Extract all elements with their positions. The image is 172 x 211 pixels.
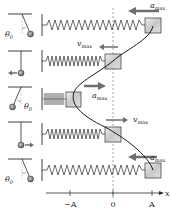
a-max-label: amax xyxy=(150,153,166,163)
tick-label-zero: 0 xyxy=(111,200,116,209)
v-max-arrow-left xyxy=(99,44,118,50)
velocity-arrow-left xyxy=(8,71,17,76)
v-max-label: vmax xyxy=(133,115,148,125)
shm-diagram: θ0 amax xyxy=(0,0,172,211)
tick-label-neg-a: −A xyxy=(64,200,77,209)
spring-mass-2: vmax xyxy=(42,39,121,72)
a-max-label: amax xyxy=(150,1,166,11)
block xyxy=(105,127,121,142)
row-5: θ0 amax xyxy=(5,153,166,185)
spring-mass-1: amax xyxy=(42,1,166,36)
spring xyxy=(42,56,105,66)
theta-label: θ0 xyxy=(5,175,14,185)
spring xyxy=(42,20,145,30)
pendulum-bob xyxy=(18,142,24,148)
tick-label-a: A xyxy=(148,200,155,209)
row-2: vmax xyxy=(8,39,121,76)
pendulum-2 xyxy=(8,51,32,76)
pendulum-4 xyxy=(8,122,34,148)
theta-label: θ0 xyxy=(5,30,14,40)
a-max-label: amax xyxy=(92,91,108,101)
row-4: vmax xyxy=(8,115,148,148)
spring xyxy=(42,129,105,139)
x-axis: x −A 0 A xyxy=(46,189,170,209)
v-max-arrow-right xyxy=(106,117,128,123)
spring-mass-5: amax xyxy=(42,153,166,181)
spring xyxy=(42,165,145,175)
row-1: θ0 amax xyxy=(5,1,166,40)
pendulum-bob xyxy=(28,176,34,182)
spring-mass-4: vmax xyxy=(42,115,148,145)
v-max-label: vmax xyxy=(77,39,92,49)
pendulum-3: θ0 xyxy=(8,87,33,112)
pendulum-bob xyxy=(10,104,16,110)
spring-mass-3: amax xyxy=(42,82,108,110)
pendulum-5: θ0 xyxy=(5,159,34,185)
block xyxy=(145,163,161,178)
block xyxy=(145,18,161,33)
pendulum-1: θ0 xyxy=(5,14,34,40)
a-max-arrow-right xyxy=(84,82,106,90)
theta-label: θ0 xyxy=(24,102,33,112)
velocity-arrow-right xyxy=(25,143,34,148)
row-3: θ0 amax xyxy=(8,82,108,112)
axis-label-x: x xyxy=(165,189,170,198)
pendulum-bob xyxy=(18,70,24,76)
pendulum-bob xyxy=(28,31,34,37)
